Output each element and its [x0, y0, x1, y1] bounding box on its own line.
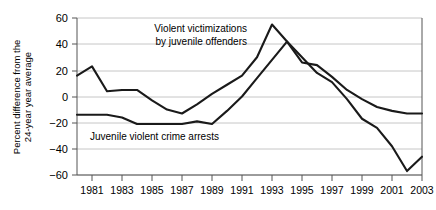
x-tick-label-1981: 1981 [80, 184, 104, 196]
y-axis-title-line2: 24-year year average [22, 52, 33, 142]
y-tick-label-m60: −60 [49, 169, 68, 181]
x-tick-label-1985: 1985 [140, 184, 164, 196]
y-tick-label-m40: −40 [49, 143, 68, 155]
y-tick-marks [72, 18, 77, 175]
x-tick-labels: 1981 1983 1985 1987 1989 1991 1993 1995 … [80, 184, 434, 196]
x-tick-label-1999: 1999 [350, 184, 374, 196]
x-tick-label-1991: 1991 [230, 184, 254, 196]
x-tick-label-1983: 1983 [110, 184, 134, 196]
series-line-arrests [77, 42, 422, 172]
victimizations-annotation-line2: by juvenile offenders [155, 36, 247, 47]
arrests-annotation-line1: Juvenile violent crime arrests [90, 131, 219, 142]
y-tick-label-60: 60 [56, 12, 68, 24]
y-tick-label-m20: −20 [49, 117, 68, 129]
x-tick-label-1989: 1989 [200, 184, 224, 196]
series-line-victimizations [77, 25, 422, 114]
x-tick-marks [92, 175, 422, 181]
y-axis-title-line1: Percent difference from the [11, 40, 22, 154]
gridlines [77, 18, 422, 175]
x-tick-label-1997: 1997 [320, 184, 344, 196]
victimizations-annotation-line1: Violent victimizations [154, 23, 247, 34]
y-tick-label-20: 20 [56, 65, 68, 77]
plot-frame [77, 18, 422, 175]
line-chart: Percent difference from the 24-year year… [0, 0, 436, 210]
x-tick-label-2003: 2003 [410, 184, 434, 196]
y-tick-label-40: 40 [56, 38, 68, 50]
x-tick-label-1987: 1987 [170, 184, 194, 196]
x-tick-label-1995: 1995 [290, 184, 314, 196]
y-tick-labels: 60 40 20 0 −20 −40 −60 [49, 12, 68, 181]
y-axis-title-group: Percent difference from the 24-year year… [11, 40, 33, 154]
chart-container: Percent difference from the 24-year year… [0, 0, 436, 210]
x-tick-label-2001: 2001 [380, 184, 404, 196]
y-tick-label-0: 0 [62, 91, 68, 103]
x-tick-label-1993: 1993 [260, 184, 284, 196]
